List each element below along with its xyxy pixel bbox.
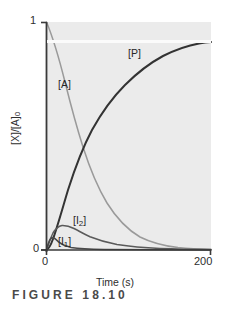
y-axis-tick-label-top: 1: [30, 15, 36, 26]
curve-label-i2-end: ]: [83, 214, 86, 226]
curve-label-product: [P]: [128, 48, 141, 59]
curve-label-intermediate-2: [I2]: [73, 215, 86, 228]
figure-container: 1 0 0 200 [P] [A] [I2] [I1] [X]/[A]0 Tim…: [0, 0, 230, 310]
curve-label-i1-end: ]: [68, 235, 71, 247]
x-axis-title: Time (s): [0, 277, 230, 288]
curve-label-reactant: [A]: [58, 79, 71, 90]
curve-label-intermediate-1: [I1]: [58, 236, 71, 249]
chart-plot-svg: [0, 0, 230, 278]
y-axis-title-subscript: 0: [13, 112, 22, 116]
y-axis-tick-label-bottom: 0: [33, 243, 39, 254]
x-axis-tick-label-right: 200: [194, 256, 212, 267]
y-axis-title-main: [X]/[A]: [9, 116, 21, 145]
chart-area: 1 0 0 200 [P] [A] [I2] [I1] [X]/[A]0 Tim…: [0, 0, 230, 278]
x-axis-tick-label-left: 0: [42, 256, 48, 267]
y-axis-title: [X]/[A]0: [10, 88, 23, 168]
figure-caption: FIGURE 18.10: [12, 289, 128, 301]
